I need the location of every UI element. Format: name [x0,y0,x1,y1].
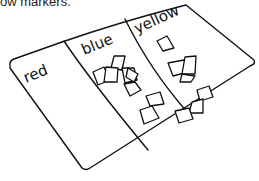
blue-papers [93,56,164,124]
divider-red-blue [64,41,148,150]
yellow-papers [157,36,213,123]
column-label-red: red [21,61,51,87]
column-label-yellow: yellow [131,1,182,38]
sorting-mat-illustration: red blue yellow [0,0,259,181]
